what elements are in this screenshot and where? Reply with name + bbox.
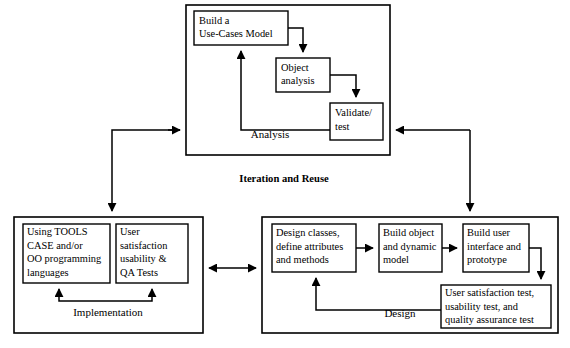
node-label-build-object-model-line-1: Build object [383, 227, 434, 238]
connector-satisfaction-test-to-design-classes [316, 278, 441, 310]
node-label-build-user-interface-line-1: Build user [467, 227, 511, 238]
node-label-validate-test-line-1: Validate/ [335, 107, 372, 118]
node-label-build-user-interface-line-3: prototype [467, 254, 507, 265]
node-label-user-satisfaction-qa-line-4: QA Tests [120, 267, 158, 278]
connector-usecases-to-object-analysis [288, 28, 303, 52]
diagram-title: Iteration and Reuse [239, 173, 329, 184]
node-label-design-classes-line-2: define attributes [276, 241, 343, 252]
connector-object-analysis-to-validate [330, 75, 356, 97]
node-label-user-satisfaction-qa-line-3: usability & [120, 253, 166, 264]
node-label-user-satisfaction-qa-line-1: User [120, 226, 140, 237]
node-label-design-classes-line-1: Design classes, [276, 227, 340, 238]
node-label-validate-test-line-2: test [335, 121, 350, 132]
node-label-using-tools-line-2: CASE and/or [27, 240, 83, 251]
iteration-and-reuse-diagram: Build a Use-Cases Model Object analysis … [0, 0, 570, 348]
node-label-user-satisfaction-test-line-3: quality assurance test [445, 314, 534, 325]
node-label-build-object-model-line-2: and dynamic [383, 241, 437, 252]
connector-analysis-to-implementation [112, 130, 180, 211]
node-label-object-analysis-line-2: analysis [281, 75, 314, 86]
group-label-implementation: Implementation [73, 306, 143, 318]
node-label-using-tools-line-1: Using TOOLS [27, 226, 88, 237]
node-label-build-object-model-line-3: model [383, 254, 409, 265]
node-label-build-user-interface-line-2: interface and [467, 241, 522, 252]
group-label-design: Design [384, 307, 416, 319]
node-label-design-classes-line-3: and methods [276, 254, 329, 265]
node-label-using-tools-line-3: OO programming [27, 253, 101, 264]
diagram-canvas: Build a Use-Cases Model Object analysis … [0, 0, 570, 348]
connector-build-ui-to-satisfaction-test [529, 248, 541, 279]
connector-implementation-feedback-loop [59, 289, 152, 301]
node-label-user-satisfaction-qa-line-2: satisfaction [120, 240, 168, 251]
node-label-build-use-cases-model-line-2: Use-Cases Model [199, 28, 273, 39]
node-label-object-analysis-line-1: Object [281, 62, 309, 73]
node-label-user-satisfaction-test-line-2: usability test, and [445, 301, 519, 312]
node-label-user-satisfaction-test-line-1: User satisfaction test, [445, 287, 534, 298]
node-label-build-use-cases-model-line-1: Build a [199, 15, 230, 26]
node-label-using-tools-line-4: languages [27, 267, 69, 278]
